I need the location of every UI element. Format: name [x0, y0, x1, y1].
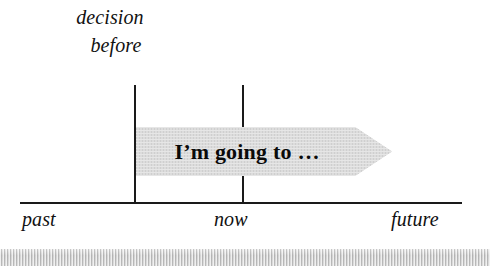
timeline-diagram: decision before I’m going to … past now …	[0, 0, 490, 266]
intention-arrow: I’m going to …	[136, 127, 392, 176]
annotation-line-before: before	[40, 32, 180, 60]
decision-before-annotation: decision before	[40, 4, 180, 59]
annotation-line-decision: decision	[76, 6, 143, 28]
bottom-texture-band	[0, 249, 490, 266]
arrow-label: I’m going to …	[136, 127, 354, 176]
time-axis	[20, 202, 462, 204]
axis-label-past: past	[22, 208, 56, 231]
axis-label-future: future	[391, 208, 439, 231]
axis-label-now: now	[214, 208, 248, 231]
